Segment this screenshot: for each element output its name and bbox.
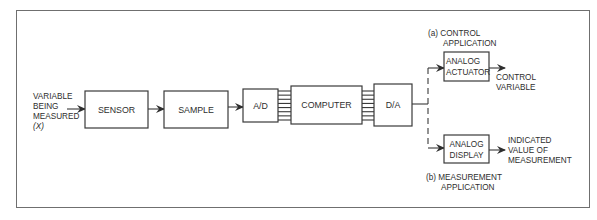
measurement-application-title: APPLICATION	[441, 183, 495, 192]
digital-bus-computer-to-da	[362, 91, 374, 120]
indicated-value-label: MEASUREMENT	[508, 156, 572, 165]
digital-bus-ad-to-computer	[278, 91, 291, 120]
input-label: VARIABLE BEING MEASURED (X)	[33, 92, 79, 131]
input-label-line: (X)	[33, 122, 44, 131]
control-application-title: APPLICATION	[443, 39, 497, 48]
computer-label: COMPUTER	[301, 100, 351, 110]
input-label-line: MEASURED	[33, 112, 79, 121]
input-label-line: BEING	[33, 102, 58, 111]
sensor-label: SENSOR	[98, 105, 135, 115]
control-variable-label: VARIABLE	[496, 83, 536, 92]
indicated-value-label: VALUE OF	[508, 146, 548, 155]
da-label: D/A	[386, 100, 401, 110]
actuator-label: ACTUATOR	[446, 68, 490, 77]
ad-label: A/D	[253, 101, 268, 111]
input-label-line: VARIABLE	[33, 92, 73, 101]
display-label: ANALOG	[449, 140, 483, 149]
display-label: DISPLAY	[450, 151, 485, 160]
control-application-title: (a) CONTROL	[428, 29, 481, 38]
control-variable-label: CONTROL	[496, 73, 536, 82]
block-diagram: VARIABLE BEING MEASURED (X) SENSOR SAMPL…	[0, 0, 597, 220]
indicated-value-label: INDICATED	[508, 136, 552, 145]
sample-label: SAMPLE	[178, 105, 214, 115]
measurement-application-title: (b) MEASUREMENT	[426, 173, 502, 182]
actuator-label: ANALOG	[446, 57, 480, 66]
